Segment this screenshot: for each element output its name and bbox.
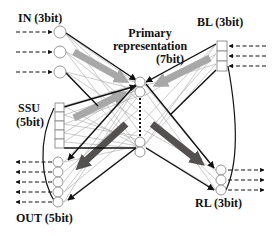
primary-node xyxy=(135,77,145,87)
bl-label: BL (3bit) xyxy=(197,16,243,29)
out-label: OUT (5bit) xyxy=(16,212,73,225)
rl-output-arrows xyxy=(228,170,264,190)
ssu-node xyxy=(55,112,64,121)
out-nodes xyxy=(53,157,63,207)
architecture-diagram: IN (3bit) Primary representation (7bit) … xyxy=(0,0,279,236)
in-nodes xyxy=(54,26,66,78)
out-node xyxy=(53,177,63,187)
ssu-node xyxy=(55,139,64,148)
in-label: IN (3bit) xyxy=(18,12,62,25)
ssu-node xyxy=(55,103,64,112)
ssu-label-line2: (5bit) xyxy=(16,116,44,129)
in-node xyxy=(54,66,66,78)
out-node xyxy=(53,197,63,207)
bl-nodes xyxy=(217,41,227,71)
in-node xyxy=(54,26,66,38)
primary-label-line3: (7bit) xyxy=(100,53,200,66)
bl-node xyxy=(217,61,227,71)
rl-node xyxy=(216,175,226,185)
bl-node xyxy=(217,51,227,61)
primary-label: Primary representation (7bit) xyxy=(100,27,200,66)
in-node xyxy=(54,46,66,58)
bl-input-arrows xyxy=(229,46,266,66)
primary-label-line2: representation xyxy=(100,40,200,53)
primary-node xyxy=(135,147,145,157)
rl-node xyxy=(216,165,226,175)
primary-node xyxy=(135,87,145,97)
rl-label: RL (3bit) xyxy=(195,197,242,210)
out-node xyxy=(53,187,63,197)
ssu-nodes xyxy=(55,103,64,148)
bl-node xyxy=(217,41,227,51)
in-input-arrows xyxy=(16,32,52,72)
rl-node xyxy=(216,185,226,195)
ssu-node xyxy=(55,130,64,139)
ssu-label-line1: SSU xyxy=(18,102,40,115)
ssu-node xyxy=(55,121,64,130)
primary-nodes xyxy=(135,77,145,157)
out-node xyxy=(53,167,63,177)
rl-nodes xyxy=(216,165,226,195)
primary-node xyxy=(135,137,145,147)
out-node xyxy=(53,157,63,167)
